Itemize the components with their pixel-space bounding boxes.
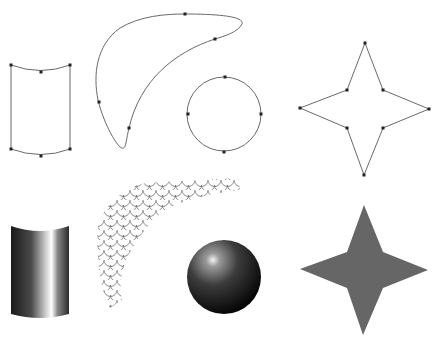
diagram-canvas (0, 0, 441, 341)
anchor-point[interactable] (128, 127, 131, 130)
anchor-point[interactable] (184, 13, 187, 16)
anchor-point[interactable] (382, 127, 385, 130)
anchor-point[interactable] (299, 107, 302, 110)
shaded-sphere (187, 240, 261, 314)
anchor-point[interactable] (382, 89, 385, 92)
anchor-point[interactable] (69, 148, 72, 151)
filled-star (300, 205, 428, 335)
anchor-point[interactable] (363, 174, 366, 177)
star-outline (299, 42, 431, 177)
anchor-point[interactable] (40, 71, 43, 74)
anchor-point[interactable] (214, 38, 217, 41)
anchor-point[interactable] (10, 64, 13, 67)
anchor-point[interactable] (40, 155, 43, 158)
anchor-point[interactable] (260, 113, 263, 116)
anchor-point[interactable] (10, 148, 13, 151)
anchor-point[interactable] (69, 64, 72, 67)
anchor-point[interactable] (346, 89, 349, 92)
anchor-point[interactable] (428, 108, 431, 111)
cylinder-outline (10, 64, 72, 158)
anchor-point[interactable] (98, 101, 101, 104)
circle-outline (187, 76, 263, 154)
anchor-point[interactable] (187, 113, 190, 116)
anchor-point[interactable] (223, 151, 226, 154)
anchor-point[interactable] (224, 76, 227, 79)
anchor-point[interactable] (364, 42, 367, 45)
anchor-point[interactable] (346, 127, 349, 130)
crescent-outline (96, 13, 242, 149)
shaded-cylinder (11, 226, 69, 318)
